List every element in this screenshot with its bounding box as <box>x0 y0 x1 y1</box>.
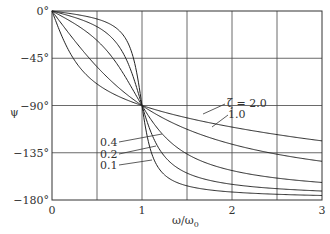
x-tick-label: 3 <box>319 204 326 217</box>
y-tick-label: −45° <box>20 52 49 65</box>
y-tick-label: −135° <box>13 147 49 160</box>
leader-zeta-04 <box>119 134 162 142</box>
x-tick-label: 2 <box>229 204 236 217</box>
y-tick-label: −180° <box>13 194 49 207</box>
y-axis-label: ψ <box>10 106 19 119</box>
label-zeta-1: 1.0 <box>228 108 246 121</box>
y-tick-label: 0° <box>37 5 50 18</box>
x-tick-label: 1 <box>139 204 146 217</box>
x-tick-label: 0 <box>49 204 56 217</box>
x-axis-label: ω/ω0 <box>172 214 199 229</box>
leader-zeta-01 <box>119 160 152 165</box>
grid <box>52 11 322 200</box>
phase-response-chart: 0°−45°−90°−135°−180° 0123 ζ = 2.0 1.0 0.… <box>0 0 330 234</box>
label-zeta-01: 0.1 <box>100 159 118 172</box>
y-tick-label: −90° <box>20 100 49 113</box>
